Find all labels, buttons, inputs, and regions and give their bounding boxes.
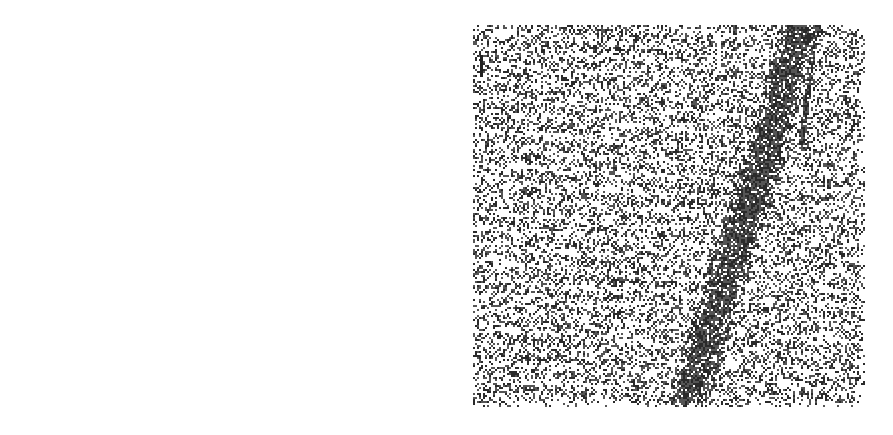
right-panel-dithered-micrograph [0,0,893,435]
right-micrograph-canvas [0,0,893,435]
